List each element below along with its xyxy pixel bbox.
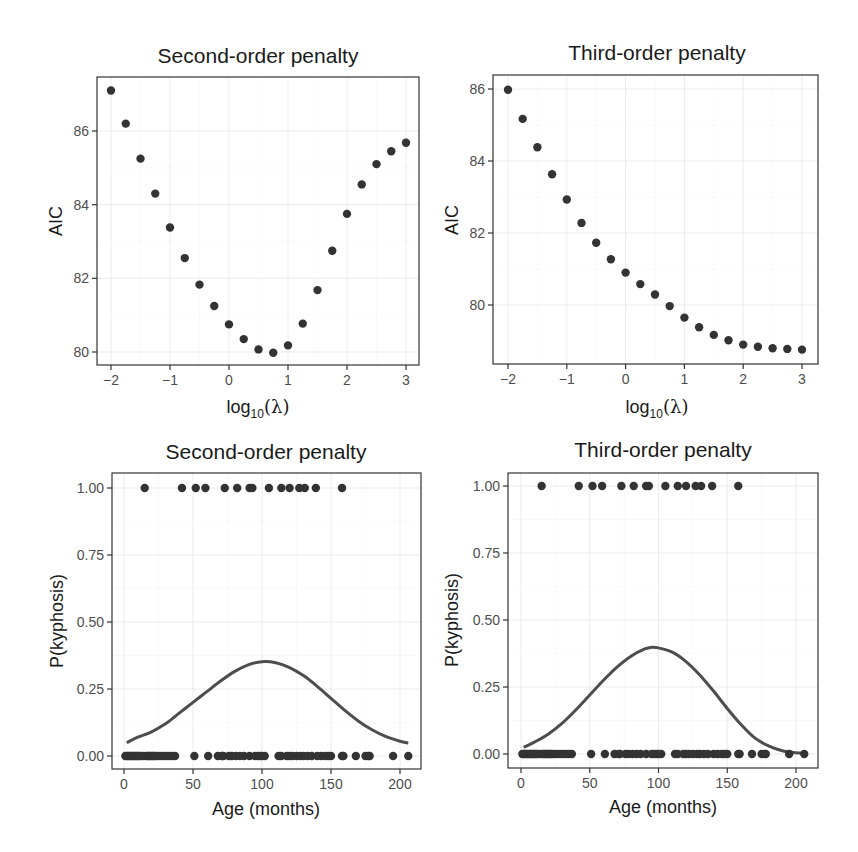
data-point <box>533 143 541 151</box>
x-axis-label: Age (months) <box>212 799 320 819</box>
fitted-curve <box>127 662 409 744</box>
data-point <box>587 750 595 758</box>
y-tick-label: 0.50 <box>77 614 104 630</box>
data-point <box>748 750 756 758</box>
data-point <box>387 147 395 155</box>
x-tick-label: 150 <box>716 775 740 791</box>
data-point <box>107 86 115 94</box>
y-tick-label: 86 <box>73 123 89 139</box>
data-point <box>739 340 747 348</box>
y-tick-label: 80 <box>73 344 89 360</box>
panel-title: Third-order penalty <box>574 438 752 461</box>
data-point <box>141 484 149 492</box>
data-point <box>327 752 335 760</box>
data-point <box>682 482 690 490</box>
gridlines <box>508 473 818 768</box>
data-point <box>338 484 346 492</box>
y-tick-label: 1.00 <box>473 478 500 494</box>
y-axis-label: AIC <box>442 205 462 235</box>
data-point <box>265 484 273 492</box>
data-point <box>695 323 703 331</box>
y-tick-label: 0.00 <box>473 746 500 762</box>
data-point <box>598 482 606 490</box>
panel-border <box>493 75 818 364</box>
y-tick-label: 82 <box>73 270 89 286</box>
data-point <box>504 86 512 94</box>
x-tick-label: 100 <box>647 775 671 791</box>
data-point <box>254 345 262 353</box>
data-point <box>754 343 762 351</box>
data-point <box>181 254 189 262</box>
x-tick-label: −1 <box>162 372 178 388</box>
data-point <box>339 752 347 760</box>
data-point <box>657 750 665 758</box>
x-tick-label: 0 <box>517 775 525 791</box>
x-tick-label: 0 <box>225 372 233 388</box>
panel-title: Second-order penalty <box>166 440 367 463</box>
data-point <box>151 189 159 197</box>
data-point <box>636 280 644 288</box>
y-axis-label: AIC <box>46 206 66 236</box>
panel-fit-third-order: 0501001502000.000.250.500.751.00 Third-o… <box>442 438 818 817</box>
x-tick-label: 150 <box>319 776 343 792</box>
y-axis-label: P(kyphosis) <box>47 574 67 668</box>
fitted-curve <box>524 647 805 753</box>
y-tick-label: 0.75 <box>77 547 104 563</box>
data-point <box>592 239 600 247</box>
data-point <box>372 160 380 168</box>
axis-ticks: 0501001502000.000.250.500.751.00 <box>77 480 412 792</box>
data-point <box>261 752 269 760</box>
y-tick-label: 0.00 <box>77 748 104 764</box>
data-point <box>800 750 808 758</box>
panel-title: Second-order penalty <box>158 44 359 67</box>
x-tick-label: 0 <box>120 776 128 792</box>
data-point <box>166 223 174 231</box>
data-point <box>299 319 307 327</box>
data-point <box>365 752 373 760</box>
y-tick-label: 80 <box>469 297 485 313</box>
y-tick-label: 1.00 <box>77 480 104 496</box>
data-point <box>248 484 256 492</box>
panel-aic-second-order: −2−1012380828486 Second-order penalty lo… <box>46 44 419 421</box>
y-tick-label: 84 <box>73 197 89 213</box>
data-point <box>734 482 742 490</box>
data-point <box>710 331 718 339</box>
y-tick-label: 86 <box>469 81 485 97</box>
x-tick-label: 3 <box>798 371 806 387</box>
data-point <box>680 313 688 321</box>
data-point <box>697 482 705 490</box>
gridlines <box>97 77 419 365</box>
data-point <box>225 320 233 328</box>
data-point <box>178 484 186 492</box>
y-tick-label: 0.50 <box>473 612 500 628</box>
panel-aic-third-order: −2−1012380828486 Third-order penalty log… <box>442 41 818 421</box>
x-tick-label: 50 <box>582 775 598 791</box>
data-point <box>735 750 743 758</box>
gridlines <box>493 75 818 364</box>
x-axis-label: log10(λ) <box>227 396 290 421</box>
data-point <box>645 482 653 490</box>
data-point <box>136 154 144 162</box>
x-axis-label: log10(λ) <box>626 396 689 421</box>
x-tick-label: 100 <box>250 776 274 792</box>
data-point <box>568 750 576 758</box>
data-point <box>328 247 336 255</box>
data-point <box>768 344 776 352</box>
data-point <box>724 336 732 344</box>
data-point <box>195 280 203 288</box>
data-point <box>651 290 659 298</box>
axis-ticks: 0501001502000.000.250.500.751.00 <box>473 478 808 791</box>
x-tick-label: 3 <box>402 372 410 388</box>
panel-title: Third-order penalty <box>568 41 746 64</box>
data-point <box>210 302 218 310</box>
figure: −2−1012380828486 Second-order penalty lo… <box>0 0 858 852</box>
x-tick-label: 0 <box>622 371 630 387</box>
y-axis-label: P(kyphosis) <box>442 573 462 667</box>
data-point <box>402 139 410 147</box>
x-tick-label: 200 <box>784 775 808 791</box>
axis-ticks: −2−1012380828486 <box>73 123 410 388</box>
y-tick-label: 84 <box>469 153 485 169</box>
data-point <box>352 752 360 760</box>
data-point <box>233 484 241 492</box>
data-point <box>666 302 674 310</box>
